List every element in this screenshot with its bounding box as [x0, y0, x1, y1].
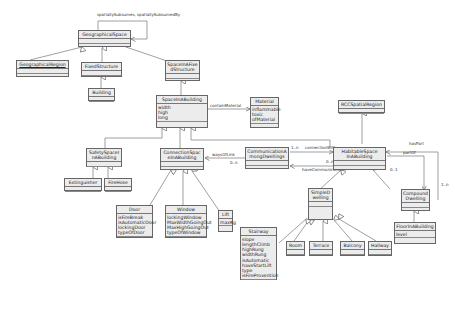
class-geographicalspace[interactable]: GeographicalSpace	[78, 30, 131, 47]
class-attributes	[339, 109, 384, 114]
class-name: SimpleDwelling	[309, 189, 332, 202]
self-association-label: spatiallySubsumes, spatiallySubsumedBy	[97, 13, 180, 17]
class-name: ConnectionSpaceInABuilding	[161, 149, 203, 162]
class-material[interactable]: Material inflammable toxic ofMaterial	[250, 97, 279, 128]
class-name: Terrace	[310, 242, 332, 250]
class-spaceinafixedstructure[interactable]: SpaceInAFixedStructure	[165, 60, 200, 81]
ways-of-link-label: waysOfLink	[212, 153, 235, 157]
class-attributes	[246, 161, 288, 166]
class-attributes: isFireBreak isAutomaticDoor lockingDoor …	[117, 214, 152, 237]
class-floorinabuilding[interactable]: FloorInABuilding level	[394, 222, 436, 244]
class-compounddwelling[interactable]: CompoundDwelling	[401, 189, 430, 211]
class-firehose[interactable]: FireHose	[104, 178, 132, 191]
class-attributes	[82, 71, 121, 76]
class-attributes	[87, 162, 121, 167]
class-door[interactable]: Door isFireBreak isAutomaticDoor locking…	[116, 205, 153, 238]
class-extinguisher[interactable]: Extinguisher	[64, 178, 102, 191]
class-attributes	[65, 187, 101, 192]
class-spaceinabuilding[interactable]: SpaceInABuilding width high long	[156, 95, 208, 128]
class-terrace[interactable]: Terrace	[309, 241, 333, 256]
connection-with-multiplicity: 1..n	[291, 146, 299, 150]
class-attributes	[369, 250, 391, 255]
class-attributes: level	[395, 231, 435, 238]
class-name: Window	[166, 206, 206, 214]
class-attributes	[79, 39, 130, 44]
class-name: Extinguisher	[65, 179, 101, 187]
class-safetyspaceinabuilding[interactable]: SafetySpaceInABuilding	[86, 148, 122, 167]
class-rccspatialregion[interactable]: RCCSpatialRegion	[338, 100, 385, 113]
class-room[interactable]: Room	[286, 241, 305, 256]
part-multiplicity-b: 1..n	[441, 183, 449, 187]
class-fixedstructure[interactable]: FixedStructure	[81, 62, 122, 77]
class-name: Building	[89, 89, 114, 97]
class-name: RCCSpatialRegion	[339, 101, 384, 109]
class-attributes: maxKg	[219, 219, 232, 226]
class-attributes	[166, 74, 199, 79]
part-multiplicity-a: 0..1	[390, 168, 398, 172]
class-communicationamongdwellings[interactable]: CommunicationAmongDwellings	[245, 147, 289, 169]
class-name: CommunicationAmongDwellings	[246, 148, 288, 161]
class-habitablespaceinabuilding[interactable]: HabitableSpaceInABuilding	[333, 147, 386, 170]
ways-of-link-multiplicity: 0..n	[230, 161, 238, 165]
class-window[interactable]: Window lockingWindow MaxWidthGoingOut Ma…	[165, 205, 207, 238]
class-name: HabitableSpaceInABuilding	[334, 148, 385, 161]
class-name: GeographicalRegion	[17, 61, 68, 69]
class-attributes: inflammable toxic ofMaterial	[251, 106, 278, 124]
class-attributes: slope lengthClimb highRung widthRung isA…	[241, 236, 276, 280]
class-name: FixedStructure	[82, 63, 121, 71]
connection-with-label: connectionWith	[305, 146, 336, 150]
part-of-label: partOf	[403, 151, 416, 155]
class-attributes	[402, 203, 429, 208]
class-name: Door	[117, 206, 152, 214]
class-name: SpaceInAFixedStructure	[166, 61, 199, 74]
class-name: Material	[251, 98, 278, 106]
contain-material-label: containMaterial	[210, 104, 241, 108]
class-simpledwelling[interactable]: SimpleDwelling	[308, 188, 333, 220]
class-attributes	[310, 250, 332, 255]
uml-diagram-canvas: spatiallySubsumes, spatiallySubsumedBy c…	[0, 0, 455, 309]
class-attributes	[341, 250, 364, 255]
class-name: SafetySpaceInABuilding	[87, 149, 121, 162]
class-hallway[interactable]: Hallway	[368, 241, 392, 256]
class-name: Balcony	[341, 242, 364, 250]
class-geographicalregion[interactable]: GeographicalRegion	[16, 60, 69, 77]
has-part-label: hasPart	[409, 142, 424, 146]
class-attributes	[105, 187, 131, 192]
class-name: GeographicalSpace	[79, 31, 130, 39]
class-lift[interactable]: Lift maxKg	[218, 210, 233, 232]
class-name: FireHose	[105, 179, 131, 187]
class-attributes	[309, 202, 332, 207]
class-name: Room	[287, 242, 304, 250]
class-attributes: width high long	[157, 104, 207, 122]
class-attributes	[89, 97, 114, 102]
class-name: Lift	[219, 211, 232, 219]
class-attributes: lockingWindow MaxWidthGoingOut MaxHighGo…	[166, 214, 206, 237]
class-attributes	[161, 162, 203, 167]
class-attributes	[334, 161, 385, 166]
class-building[interactable]: Building	[88, 88, 115, 101]
class-name: FloorInABuilding	[395, 223, 435, 231]
class-name: Hallway	[369, 242, 391, 250]
class-balcony[interactable]: Balcony	[340, 241, 365, 256]
class-connectionspaceinabuilding[interactable]: ConnectionSpaceInABuilding	[160, 148, 204, 170]
class-name: CompoundDwelling	[402, 190, 429, 203]
class-name: SpaceInABuilding	[157, 96, 207, 104]
class-attributes	[17, 69, 68, 74]
class-stairway[interactable]: Stairway slope lengthClimb highRung widt…	[240, 227, 277, 280]
class-name: Stairway	[241, 228, 276, 236]
class-attributes	[287, 250, 304, 255]
